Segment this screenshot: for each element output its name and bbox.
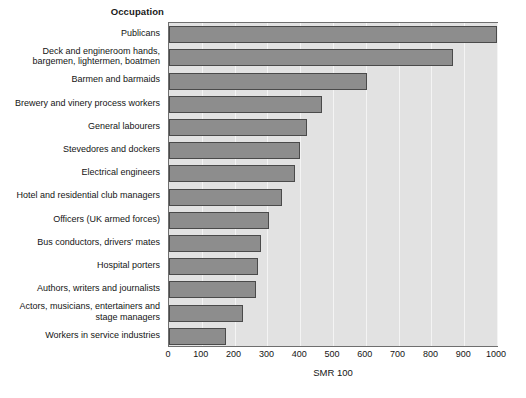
- category-label: General labourers: [0, 121, 160, 132]
- bar: [169, 49, 453, 66]
- bar: [169, 119, 307, 136]
- x-tick-label: 1000: [476, 349, 516, 359]
- category-label: Hotel and residential club managers: [0, 190, 160, 201]
- plot-area: [168, 22, 498, 347]
- category-label: Barmen and barmaids: [0, 74, 160, 85]
- gridline: [497, 23, 498, 346]
- bar: [169, 281, 256, 298]
- x-axis-title: SMR 100: [168, 367, 498, 378]
- gridline: [267, 23, 268, 346]
- bar: [169, 235, 261, 252]
- category-label: Workers in service industries: [0, 330, 160, 341]
- category-label: Publicans: [0, 28, 160, 39]
- bar: [169, 305, 243, 322]
- category-label: Officers (UK armed forces): [0, 214, 160, 225]
- category-label: Bus conductors, drivers' mates: [0, 237, 160, 248]
- bar: [169, 189, 282, 206]
- category-label: Hospital porters: [0, 260, 160, 271]
- category-axis-title: Occupation: [0, 6, 164, 17]
- bar: [169, 212, 269, 229]
- category-label: Deck and engineroom hands, bargemen, lig…: [0, 46, 160, 67]
- x-axis: 01002003004005006007008009001000: [168, 347, 498, 363]
- gridline: [431, 23, 432, 346]
- bar: [169, 73, 367, 90]
- category-label: Brewery and vinery process workers: [0, 98, 160, 109]
- smr-by-occupation-bar-chart: Occupation PublicansDeck and engineroom …: [0, 0, 526, 398]
- gridline: [366, 23, 367, 346]
- bar: [169, 26, 497, 43]
- gridline: [333, 23, 334, 346]
- bar: [169, 96, 322, 113]
- category-label: Electrical engineers: [0, 167, 160, 178]
- bar: [169, 258, 258, 275]
- bar: [169, 328, 226, 345]
- category-label: Actors, musicians, entertainers and stag…: [0, 301, 160, 322]
- gridline: [464, 23, 465, 346]
- bar: [169, 142, 300, 159]
- category-labels-column: PublicansDeck and engineroom hands, barg…: [0, 22, 164, 347]
- gridline: [399, 23, 400, 346]
- category-label: Stevedores and dockers: [0, 144, 160, 155]
- gridline: [300, 23, 301, 346]
- bar: [169, 165, 295, 182]
- category-label: Authors, writers and journalists: [0, 283, 160, 294]
